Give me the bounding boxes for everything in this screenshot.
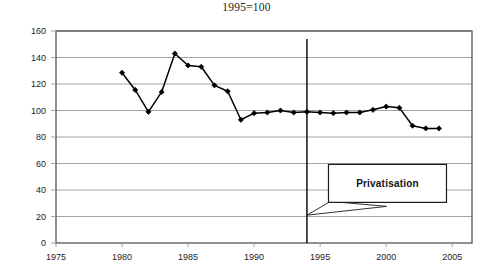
x-axis-tick-label: 2000 bbox=[376, 252, 396, 262]
y-axis-tick-label: 140 bbox=[10, 53, 46, 63]
data-series-line bbox=[122, 54, 439, 129]
data-series-markers bbox=[119, 51, 441, 131]
y-axis-tick-label: 120 bbox=[10, 79, 46, 89]
x-axis-tick-label: 2005 bbox=[442, 252, 462, 262]
y-axis-tick-label: 80 bbox=[10, 132, 46, 142]
x-axis-tick-label: 1980 bbox=[112, 252, 132, 262]
x-axis-tick-label: 1985 bbox=[178, 252, 198, 262]
y-axis-tick-label: 100 bbox=[10, 106, 46, 116]
privatisation-callout-label: Privatisation bbox=[356, 178, 419, 189]
y-axis-tick-label: 60 bbox=[10, 159, 46, 169]
y-axis-tick-label: 40 bbox=[10, 185, 46, 195]
y-axis-tick-label: 0 bbox=[10, 238, 46, 248]
x-axis-tick-label: 1995 bbox=[310, 252, 330, 262]
x-axis-tick-label: 1975 bbox=[46, 252, 66, 262]
plot-canvas bbox=[0, 0, 493, 276]
y-axis-tick-label: 20 bbox=[10, 212, 46, 222]
axis-tick-marks bbox=[51, 31, 452, 247]
callout-pointer-tail bbox=[307, 201, 387, 215]
x-axis-tick-label: 1990 bbox=[244, 252, 264, 262]
chart-figure: 1995=100 Privatisation 16014012010080604… bbox=[0, 0, 493, 276]
y-axis-tick-label: 160 bbox=[10, 26, 46, 36]
